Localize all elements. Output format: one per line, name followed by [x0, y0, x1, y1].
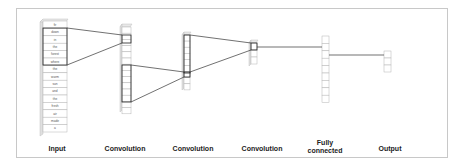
cell: [384, 65, 391, 72]
cell: [122, 70, 131, 76]
cell: [322, 51, 329, 58]
cell: [122, 89, 131, 95]
connection-lines: [67, 28, 384, 102]
cell: [122, 83, 131, 89]
cell: [251, 43, 257, 50]
cell: [122, 39, 131, 45]
cell: [184, 78, 190, 84]
cell: [251, 57, 257, 64]
cell: [251, 50, 257, 57]
cell: [122, 46, 131, 52]
cell: [122, 108, 131, 114]
input-word: the: [53, 45, 58, 49]
cell: [122, 27, 131, 33]
cell: [184, 41, 190, 47]
cell: [322, 36, 329, 43]
cell: [184, 35, 190, 41]
layer-label-fc-line2: connected: [300, 147, 350, 155]
conv2-column: [182, 32, 191, 90]
input-word: the: [53, 67, 58, 71]
cell: [322, 73, 329, 80]
cell: [322, 43, 329, 50]
layer-label-output: Output: [370, 145, 410, 153]
cell: [122, 58, 131, 64]
cell: [384, 58, 391, 65]
output-column: [384, 51, 391, 72]
cell: [322, 95, 329, 102]
cell: [184, 59, 190, 65]
cell: [122, 52, 131, 58]
input-word: warm: [51, 75, 59, 79]
input-word: sun: [52, 82, 57, 86]
cell: [322, 58, 329, 65]
cell: [184, 66, 190, 72]
layer-label-conv1: Convolution: [95, 145, 155, 153]
input-column: firdownintheforestwherethewarmsunandthef…: [40, 19, 68, 136]
layer-label-conv3: Convolution: [232, 145, 292, 153]
layer-label-fully-connected: Fully connected: [300, 139, 350, 155]
layer-label-input: Input: [42, 145, 72, 153]
input-word: forest: [51, 52, 59, 56]
cell: [322, 80, 329, 87]
cell: [122, 77, 131, 83]
input-word: down: [51, 30, 59, 34]
input-word: made: [51, 119, 59, 123]
conv1-column: [120, 24, 132, 114]
input-word: a: [54, 126, 56, 130]
cell: [322, 88, 329, 95]
input-word: and: [52, 89, 58, 93]
layer-label-conv2: Convolution: [163, 145, 223, 153]
cnn-diagram: firdownintheforestwherethewarmsunandthef…: [0, 0, 465, 165]
cell: [122, 95, 131, 101]
cell: [184, 47, 190, 53]
fully-connected-column: [322, 36, 329, 103]
input-word: fresh: [51, 104, 58, 108]
cell: [122, 33, 131, 39]
cell: [384, 51, 391, 58]
input-word: in: [54, 38, 57, 42]
cell: [184, 53, 190, 59]
input-word: the: [53, 97, 58, 101]
conv3-column: [249, 40, 258, 66]
layer-label-fc-line1: Fully: [300, 139, 350, 147]
input-word: where: [51, 60, 60, 64]
cell: [184, 84, 190, 90]
cell: [322, 66, 329, 73]
